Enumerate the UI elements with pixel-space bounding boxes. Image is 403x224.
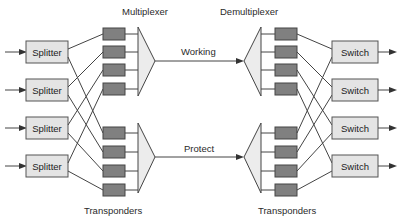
transponder [103,165,125,177]
transponder [103,64,125,76]
protect-link: Protect [155,143,244,160]
multiplexer-label: Multiplexer [122,6,168,17]
transponder [103,83,125,95]
protection-diagram: Multiplexer Demultiplexer Splitter Split… [0,0,403,224]
multiplexer-protect [138,123,155,193]
splitter-label: Splitter [32,85,62,96]
transponder [275,64,297,76]
protect-label: Protect [184,143,214,154]
transponder [103,184,125,196]
splitter-4: Splitter [26,155,68,177]
splitter-2: Splitter [26,79,68,101]
demultiplexer-protect [244,123,261,193]
arrow-icon [389,49,397,55]
switch-label: Switch [341,85,369,96]
transponder [275,184,297,196]
switch-4: Switch [332,155,378,177]
transponder [103,46,125,58]
switch-2: Switch [332,79,378,101]
transponder [275,46,297,58]
transponder [103,127,125,139]
splitter-connections [68,34,103,190]
demultiplexer-label: Demultiplexer [220,6,278,17]
transponders-left-label: Transponders [84,205,143,216]
working-link: Working [155,46,244,64]
arrow-icon [236,58,244,64]
splitter-label: Splitter [32,123,62,134]
transponder [275,127,297,139]
splitter-1: Splitter [26,41,68,63]
arrow-icon [389,163,397,169]
switch-label: Switch [341,161,369,172]
transponder [103,28,125,40]
splitter-label: Splitter [32,161,62,172]
transponders-right-label: Transponders [258,205,317,216]
switch-3: Switch [332,117,378,139]
transponder [275,83,297,95]
arrow-icon [236,154,244,160]
switch-1: Switch [332,41,378,63]
working-label: Working [181,46,216,57]
splitter-3: Splitter [26,117,68,139]
transponder [275,28,297,40]
demultiplexer-working [244,27,261,96]
arrow-icon [389,87,397,93]
right-transponders [261,28,297,196]
switch-label: Switch [341,123,369,134]
splitter-label: Splitter [32,47,62,58]
left-transponders [103,28,138,196]
arrow-icon [389,125,397,131]
output-arrows [378,49,397,169]
transponder [275,165,297,177]
switch-connections [297,34,332,190]
switch-label: Switch [341,47,369,58]
transponder [275,146,297,158]
multiplexer-working [138,27,155,96]
transponder [103,146,125,158]
input-arrows [5,49,27,169]
